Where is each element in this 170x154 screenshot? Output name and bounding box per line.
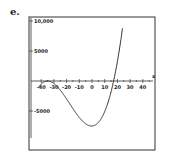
x-tick-label: 40 (139, 84, 146, 90)
y-tick-label: -5000 (34, 108, 51, 114)
x-tick-label: -40 (37, 84, 47, 90)
y-tick-label: 5000 (34, 48, 48, 54)
y-ticks: 10,0005000-5000 (29, 18, 54, 114)
function-curve (39, 28, 123, 126)
x-tick-label: -10 (75, 84, 85, 90)
x-tick-label: 30 (127, 84, 134, 90)
x-tick-label: -20 (62, 84, 72, 90)
x-tick-label: 0 (90, 84, 94, 90)
chart: -40-30-20-10010203040 10,0005000-5000 x (0, 0, 170, 154)
y-tick-label: 10,000 (34, 18, 54, 24)
x-tick-label: 10 (101, 84, 108, 90)
x-tick-label: 20 (114, 84, 121, 90)
